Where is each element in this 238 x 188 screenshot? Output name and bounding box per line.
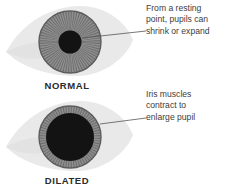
iris-striation (94, 136, 101, 138)
annotation-line: Iris muscles (146, 89, 238, 100)
eye-dilated (6, 101, 133, 171)
annotation-line: point, pupils can (146, 14, 238, 25)
annotation-normal-pupil: From a resting point, pupils can shrink … (146, 3, 238, 37)
annotation-line: contract to (146, 100, 238, 111)
annotation-line: shrink or expand (146, 26, 238, 37)
annotation-line: From a resting (146, 3, 238, 14)
eye-label-dilated: DILATED (0, 175, 134, 186)
iris-striation (69, 161, 71, 168)
eye-normal (6, 6, 133, 76)
iris-striation (39, 136, 46, 138)
pupil-normal (59, 31, 82, 54)
annotation-dilated-iris: Iris muscles contract to enlarge pupil (146, 89, 238, 123)
pupil-dilated (46, 113, 94, 161)
iris-striation (69, 106, 71, 113)
annotation-line: enlarge pupil (146, 112, 238, 123)
pupil-dilation-figure: NORMAL DILATED From a resting point, pup… (0, 0, 238, 188)
eye-label-normal: NORMAL (0, 80, 134, 91)
